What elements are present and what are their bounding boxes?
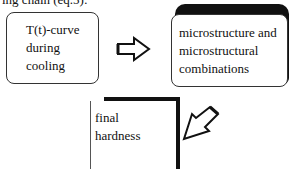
node-label-line: hardness	[95, 127, 141, 145]
node-label-line: during	[26, 39, 79, 57]
node-label-line: combinations	[179, 60, 277, 78]
caption-text: ing chain (eq.5):	[2, 0, 88, 8]
node-label-line: final	[95, 109, 141, 127]
node-temperature-curve: T(t)-curve during cooling	[6, 12, 99, 84]
node-label-line: microstructure and	[179, 24, 277, 42]
right-arrow-icon	[116, 36, 152, 62]
node-final-hardness: final hardness	[90, 101, 176, 169]
down-left-arrow-icon	[181, 104, 221, 144]
node-label-line: T(t)-curve	[26, 21, 79, 39]
node-label-line: microstructural	[179, 42, 277, 60]
node-microstructure: microstructure and microstructural combi…	[171, 14, 288, 87]
node-label-line: cooling	[26, 57, 79, 75]
